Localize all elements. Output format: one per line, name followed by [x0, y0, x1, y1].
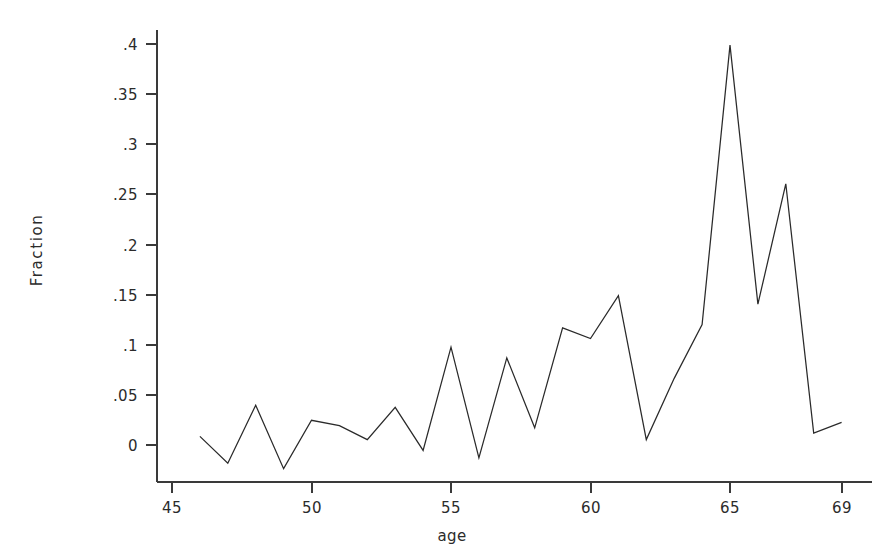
x-axis-title: age	[437, 527, 466, 545]
y-tick-label: .2	[123, 237, 138, 255]
x-tick-label: 60	[581, 499, 601, 517]
x-tick-label: 55	[441, 499, 461, 517]
y-tick-label: .1	[123, 337, 138, 355]
x-tick-label: 69	[832, 499, 852, 517]
x-tick-label: 45	[162, 499, 182, 517]
y-tick-label: .35	[113, 86, 138, 104]
chart-container: .4 .35 .3 .25 .2 .15 .1 .05 0 45 50 55 6…	[0, 0, 888, 556]
y-tick-label: .4	[123, 36, 138, 54]
y-tick-label: 0	[128, 437, 138, 455]
y-tick-label: .3	[123, 136, 138, 154]
x-tick-label: 50	[302, 499, 322, 517]
y-axis-title: Fraction	[28, 214, 46, 287]
line-chart: .4 .35 .3 .25 .2 .15 .1 .05 0 45 50 55 6…	[0, 0, 888, 556]
y-tick-label: .05	[113, 387, 138, 405]
x-tick-label: 65	[720, 499, 740, 517]
y-tick-label: .15	[113, 287, 138, 305]
y-tick-label: .25	[113, 186, 138, 204]
